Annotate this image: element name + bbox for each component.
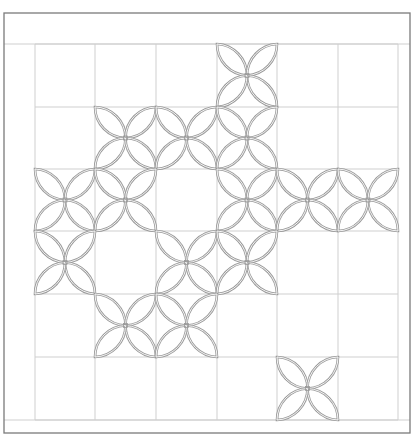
- petal-inner-line: [126, 107, 157, 138]
- petal-inner-line: [95, 107, 126, 138]
- petal-inner-line: [338, 169, 368, 200]
- petal-inner-line: [35, 231, 65, 263]
- orange-peel-block: [277, 357, 338, 420]
- petal-inner-line: [217, 138, 247, 169]
- petal-inner-line: [95, 294, 126, 326]
- orange-peel-block: [277, 169, 338, 231]
- petal-inner-line: [65, 200, 95, 231]
- orange-peel-block: [217, 231, 277, 294]
- petal-inner-line: [126, 200, 157, 231]
- petal-inner-line: [247, 200, 277, 231]
- frame-rect: [4, 13, 410, 433]
- orange-peel-block: [217, 44, 277, 107]
- orange-peel-block: [35, 231, 95, 294]
- petal-inner-line: [247, 231, 277, 263]
- petal-inner-line: [247, 44, 277, 76]
- petal-inner-line: [95, 200, 126, 231]
- petal-inner-line: [338, 200, 368, 231]
- petal-inner-line: [35, 169, 65, 200]
- petal-inner-line: [277, 357, 308, 389]
- petal-inner-line: [247, 76, 277, 108]
- petal-inner-line: [217, 107, 247, 138]
- petal-inner-line: [247, 169, 277, 200]
- petal-inner-line: [217, 44, 247, 76]
- petal-inner-line: [65, 263, 95, 295]
- petal-inner-line: [217, 263, 247, 295]
- petal-inner-line: [187, 294, 218, 326]
- petal-inner-line: [277, 389, 308, 421]
- petal-inner-line: [217, 76, 247, 108]
- petal-inner-line: [35, 263, 65, 295]
- petal-inner-line: [307, 169, 338, 200]
- petal-inner-line: [125, 294, 156, 326]
- petal-inner-line: [187, 107, 218, 138]
- petal-inner-line: [308, 389, 339, 421]
- petal-inner-line: [65, 231, 95, 263]
- orange-peel-block: [95, 169, 156, 231]
- petal-inner-line: [277, 169, 308, 200]
- orange-peel-block: [35, 169, 95, 231]
- petal-inner-line: [126, 138, 157, 169]
- petal-inner-line: [95, 326, 126, 358]
- orange-peel-block: [95, 294, 156, 357]
- petal-inner-line: [187, 263, 218, 295]
- petal-inner-line: [156, 231, 187, 263]
- outer-border: [4, 13, 410, 433]
- petal-inner-line: [156, 326, 187, 358]
- orange-peel-block: [156, 107, 217, 169]
- petal-inner-line: [368, 169, 398, 200]
- petal-inner-line: [126, 169, 157, 200]
- petal-inner-line: [277, 200, 308, 231]
- orange-peel-block: [95, 107, 156, 169]
- petal-inner-line: [187, 231, 218, 263]
- petal-inner-line: [247, 138, 277, 169]
- orange-peel-block: [338, 169, 398, 231]
- petal-inner-line: [247, 263, 277, 295]
- petal-inner-line: [95, 169, 126, 200]
- petal-inner-line: [217, 231, 247, 263]
- orange-peel-block: [156, 231, 217, 294]
- petal-inner-line: [95, 138, 126, 169]
- petal-inner-line: [156, 294, 187, 326]
- petal-inner-line: [35, 200, 65, 231]
- petal-inner-line: [187, 326, 218, 358]
- orange-peel-block: [217, 107, 277, 169]
- orange-peel-block: [217, 169, 277, 231]
- quilt-diagram: [0, 0, 417, 435]
- orange-peel-block: [156, 294, 217, 357]
- petal-inner-line: [156, 138, 187, 169]
- petal-inner-line: [156, 263, 187, 295]
- petal-inner-line: [217, 200, 247, 231]
- petal-inner-line: [126, 326, 157, 358]
- petal-inner-line: [217, 169, 247, 200]
- petal-inner-line: [368, 200, 398, 231]
- petal-inner-line: [187, 138, 218, 169]
- petal-inner-line: [308, 357, 339, 389]
- petal-inner-line: [156, 107, 187, 138]
- petal-inner-line: [247, 107, 277, 138]
- petal-inner-line: [308, 200, 339, 231]
- petal-inner-line: [65, 169, 95, 200]
